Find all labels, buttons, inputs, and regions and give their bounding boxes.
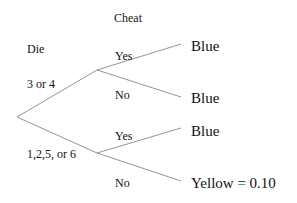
label-upper-yes: Yes [115, 50, 132, 62]
branch-upper-no [97, 70, 181, 97]
branch-lower-no [97, 153, 181, 181]
label-die-lower: 1,2,5, or 6 [27, 148, 76, 160]
outcome-lower-yes: Blue [191, 124, 219, 139]
outcome-upper-no: Blue [191, 91, 219, 106]
label-lower-no: No [115, 177, 130, 189]
label-lower-yes: Yes [115, 130, 132, 142]
outcome-lower-no: Yellow = 0.10 [191, 176, 276, 191]
outcome-upper-yes: Blue [191, 39, 219, 54]
branch-upper-yes [97, 44, 181, 70]
header-die: Die [27, 43, 44, 55]
branch-lower-yes [97, 128, 181, 153]
header-cheat: Cheat [114, 12, 142, 24]
label-die-upper: 3 or 4 [27, 78, 55, 90]
tree-lines [0, 0, 297, 203]
label-upper-no: No [115, 89, 130, 101]
